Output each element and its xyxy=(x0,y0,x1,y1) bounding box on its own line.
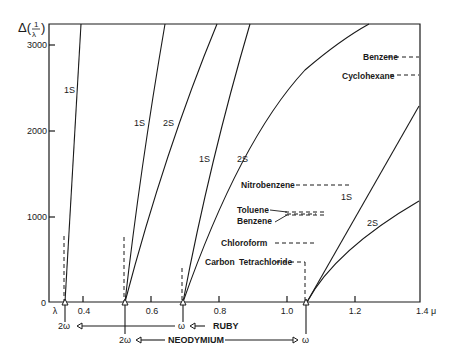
svg-text:1.2: 1.2 xyxy=(349,306,362,316)
svg-text:1S: 1S xyxy=(199,154,210,164)
svg-text:3000: 3000 xyxy=(27,40,47,50)
svg-text:0.8: 0.8 xyxy=(214,306,227,316)
svg-text:Chloroform: Chloroform xyxy=(221,238,268,248)
svg-text:1: 1 xyxy=(34,20,39,29)
svg-text:ω: ω xyxy=(178,321,185,331)
y-axis-title: Δ( 1 λ ) xyxy=(18,20,45,39)
svg-text:Δ(: Δ( xyxy=(18,20,32,35)
svg-text:2ω: 2ω xyxy=(58,321,70,331)
svg-text:): ) xyxy=(41,20,45,35)
svg-text:Benzene: Benzene xyxy=(237,216,272,226)
svg-text:1S: 1S xyxy=(134,118,145,128)
leader-lines xyxy=(270,210,287,222)
y-tick-labels: 3000 2000 1000 0 xyxy=(27,40,47,308)
raman-shift-chart: Δ( 1 λ ) 3000 2000 1000 0 λ 0.4 0.6 0.8 … xyxy=(0,0,450,360)
svg-text:1.4 μ: 1.4 μ xyxy=(416,306,436,316)
svg-text:Benzene: Benzene xyxy=(363,52,398,62)
svg-text:1S: 1S xyxy=(64,85,75,95)
x-tick-labels: λ 0.4 0.6 0.8 1.0 1.2 1.4 μ xyxy=(53,306,436,316)
svg-text:2000: 2000 xyxy=(27,126,47,136)
svg-text:0.6: 0.6 xyxy=(146,306,159,316)
svg-text:Cyclohexane: Cyclohexane xyxy=(342,71,395,81)
svg-text:Carbon: Carbon xyxy=(205,257,235,267)
svg-text:ω: ω xyxy=(302,335,309,345)
svg-text:RUBY: RUBY xyxy=(213,321,239,331)
svg-text:0.4: 0.4 xyxy=(78,306,91,316)
svg-text:NEODYMIUM: NEODYMIUM xyxy=(168,335,224,345)
curve-1s-nd-2w xyxy=(125,24,165,302)
svg-text:λ: λ xyxy=(53,306,58,316)
svg-text:2S: 2S xyxy=(163,118,174,128)
svg-text:λ: λ xyxy=(32,30,36,39)
svg-text:1.0: 1.0 xyxy=(281,306,294,316)
svg-text:Toluene: Toluene xyxy=(237,205,269,215)
laser-labels: 2ω ω RUBY 2ω NEODYMIUM ω xyxy=(58,321,309,345)
svg-text:Tetrachloride: Tetrachloride xyxy=(239,257,292,267)
svg-text:2S: 2S xyxy=(367,218,378,228)
curve-1s-ruby-2w xyxy=(65,24,81,302)
curve-2s-nd-w xyxy=(307,201,419,302)
solvent-labels: Benzene Cyclohexane Nitrobenzene Toluene… xyxy=(205,52,398,267)
svg-text:1000: 1000 xyxy=(27,212,47,222)
svg-text:2ω: 2ω xyxy=(119,335,131,345)
curve-1s-nd-w xyxy=(307,106,419,302)
svg-text:2S: 2S xyxy=(237,154,248,164)
svg-text:0: 0 xyxy=(41,298,46,308)
y-ticks xyxy=(49,45,55,217)
svg-text:Nitrobenzene: Nitrobenzene xyxy=(241,180,295,190)
svg-text:1S: 1S xyxy=(341,192,352,202)
